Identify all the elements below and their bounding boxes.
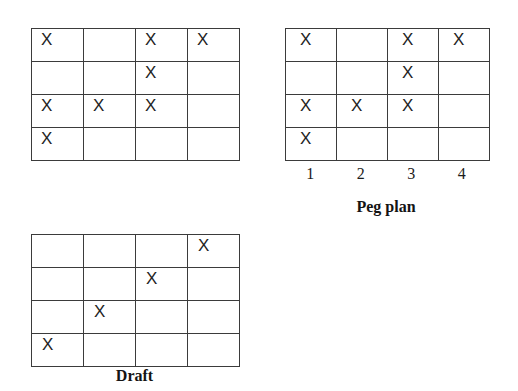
cell-mark [32, 268, 83, 300]
cell-mark [84, 29, 135, 61]
peg-plan-grid-block: X X X X X X X X [285, 28, 490, 161]
top-left-grid: X X X X X X X X [31, 28, 240, 161]
cell-mark [136, 301, 187, 333]
grid-cell[interactable] [439, 95, 490, 128]
grid-cell[interactable]: X [188, 29, 240, 62]
grid-cell[interactable] [188, 95, 240, 128]
cell-mark [188, 268, 239, 300]
peg-plan-column-numbers: 1 2 3 4 [285, 166, 487, 182]
table-row: X X X [32, 29, 240, 62]
grid-cell[interactable] [84, 128, 136, 161]
cell-mark: X [337, 95, 387, 127]
grid-cell[interactable] [136, 301, 188, 334]
draft-grid: X X X X [31, 234, 240, 367]
grid-cell[interactable]: X [188, 235, 240, 268]
grid-cell[interactable]: X [286, 29, 337, 62]
grid-cell[interactable] [84, 62, 136, 95]
grid-cell[interactable] [337, 62, 388, 95]
grid-cell[interactable] [337, 29, 388, 62]
grid-cell[interactable] [136, 334, 188, 367]
cell-mark [84, 128, 135, 160]
table-row: X [32, 128, 240, 161]
grid-cell[interactable]: X [286, 95, 337, 128]
cell-mark: X [136, 268, 187, 300]
grid-cell[interactable] [286, 62, 337, 95]
grid-cell[interactable] [439, 62, 490, 95]
grid-cell[interactable]: X [32, 334, 84, 367]
grid-cell[interactable] [188, 62, 240, 95]
cell-mark [188, 334, 239, 366]
column-number-2: 2 [336, 166, 387, 182]
grid-cell[interactable]: X [388, 29, 439, 62]
top-left-grid-block: X X X X X X X X [31, 28, 240, 161]
grid-cell[interactable] [84, 334, 136, 367]
grid-cell[interactable]: X [388, 95, 439, 128]
cell-mark: X [32, 29, 83, 61]
grid-cell[interactable]: X [32, 128, 84, 161]
table-row: X [32, 301, 240, 334]
top-left-grid-body: X X X X X X X X [32, 29, 240, 161]
grid-cell[interactable] [188, 268, 240, 301]
grid-cell[interactable]: X [388, 62, 439, 95]
table-row: X X X [32, 95, 240, 128]
cell-mark: X [388, 29, 438, 61]
column-number-3: 3 [386, 166, 437, 182]
grid-cell[interactable]: X [439, 29, 490, 62]
grid-cell[interactable] [32, 268, 84, 301]
grid-cell[interactable]: X [84, 95, 136, 128]
draft-caption: Draft [31, 368, 238, 384]
draft-grid-body: X X X X [32, 235, 240, 367]
grid-cell[interactable] [188, 128, 240, 161]
grid-cell[interactable] [337, 128, 388, 161]
grid-cell[interactable] [84, 235, 136, 268]
cell-mark: X [32, 95, 83, 127]
grid-cell[interactable]: X [136, 62, 188, 95]
cell-mark [439, 128, 489, 160]
grid-cell[interactable] [32, 62, 84, 95]
grid-cell[interactable] [188, 301, 240, 334]
cell-mark: X [136, 29, 187, 61]
grid-cell[interactable] [32, 301, 84, 334]
column-number-4: 4 [437, 166, 488, 182]
cell-mark [439, 95, 489, 127]
table-row: X X X [286, 95, 490, 128]
grid-cell[interactable] [84, 29, 136, 62]
cell-mark: X [286, 128, 336, 160]
grid-cell[interactable] [136, 128, 188, 161]
grid-cell[interactable] [388, 128, 439, 161]
cell-mark: X [32, 334, 83, 366]
cell-mark [32, 235, 83, 267]
grid-cell[interactable] [439, 128, 490, 161]
grid-cell[interactable]: X [136, 268, 188, 301]
cell-mark [337, 128, 387, 160]
grid-cell[interactable] [188, 334, 240, 367]
cell-mark: X [286, 95, 336, 127]
table-row: X [286, 128, 490, 161]
grid-cell[interactable]: X [32, 95, 84, 128]
cell-mark [84, 235, 135, 267]
grid-cell[interactable]: X [84, 301, 136, 334]
grid-cell[interactable]: X [136, 95, 188, 128]
cell-mark: X [188, 235, 239, 267]
cell-mark [84, 268, 135, 300]
cell-mark [32, 301, 83, 333]
cell-mark [286, 62, 336, 94]
table-row: X [32, 334, 240, 367]
cell-mark: X [136, 95, 187, 127]
grid-cell[interactable]: X [136, 29, 188, 62]
cell-mark: X [388, 62, 438, 94]
cell-mark [337, 29, 387, 61]
grid-cell[interactable]: X [286, 128, 337, 161]
cell-mark [388, 128, 438, 160]
draft-grid-block: X X X X [31, 234, 240, 367]
grid-cell[interactable] [32, 235, 84, 268]
cell-mark [439, 62, 489, 94]
cell-mark [84, 334, 135, 366]
grid-cell[interactable] [84, 268, 136, 301]
column-number-1: 1 [285, 166, 336, 182]
grid-cell[interactable] [136, 235, 188, 268]
table-row: X [286, 62, 490, 95]
grid-cell[interactable]: X [32, 29, 84, 62]
grid-cell[interactable]: X [337, 95, 388, 128]
peg-plan-grid: X X X X X X X X [285, 28, 490, 161]
